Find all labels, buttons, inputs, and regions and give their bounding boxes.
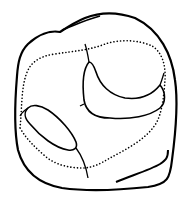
crescent-tail-right xyxy=(160,73,164,85)
elongated-root-line xyxy=(76,148,88,178)
figure-caption-clipped xyxy=(0,193,190,200)
specimen-line-drawing xyxy=(0,0,190,200)
lower-right-stroke xyxy=(116,150,168,182)
outer-outline xyxy=(15,14,176,191)
elongated-structure xyxy=(25,106,76,151)
dotted-inner-contour xyxy=(20,41,165,168)
crescent-tail-left xyxy=(80,104,84,106)
crescent-root-top xyxy=(85,44,89,62)
outer-outline-overlap xyxy=(62,16,100,30)
crescent-structure xyxy=(83,62,164,119)
